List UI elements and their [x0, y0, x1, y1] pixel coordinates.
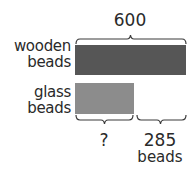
glass-label: glass beads	[0, 84, 71, 116]
difference-unit: beads	[134, 149, 186, 165]
difference-label: 285 beads	[134, 132, 186, 165]
unknown-label: ?	[94, 132, 114, 149]
bottom-left-brace	[76, 115, 133, 124]
glass-label-line1: glass	[0, 84, 71, 100]
glass-beads-bar	[75, 83, 134, 114]
wooden-label-line1: wooden	[0, 38, 71, 54]
wooden-beads-bar	[75, 45, 186, 75]
bottom-right-brace	[137, 115, 186, 124]
top-brace	[76, 35, 186, 44]
difference-number: 285	[134, 132, 186, 149]
wooden-label: wooden beads	[0, 38, 71, 70]
glass-label-line2: beads	[0, 100, 71, 116]
wooden-label-line2: beads	[0, 54, 71, 70]
